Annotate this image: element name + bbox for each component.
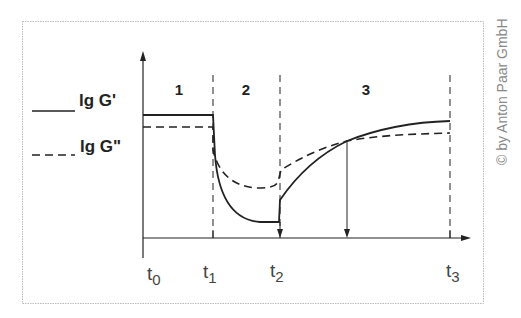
phase-separators (213, 75, 450, 238)
t0-label: t0 (147, 263, 161, 288)
phase-3-label: 3 (362, 81, 370, 98)
t1-label: t1 (203, 261, 217, 286)
phase-2-label: 2 (242, 81, 250, 98)
y-axis-arrow-icon (140, 51, 146, 61)
x-axis-arrow-icon (461, 235, 471, 241)
legend-g-double-prime-label: lg G" (80, 137, 121, 156)
rheology-diagram: lg G' lg G" 1 2 3 t0 t1 t2 t3 © by Anton… (0, 0, 521, 318)
axes (140, 51, 471, 258)
t2-down-arrow-icon (277, 229, 283, 238)
legend-g-prime-label: lg G' (79, 91, 116, 110)
t3-label: t3 (446, 260, 460, 285)
crossover-down-arrow-icon (344, 229, 350, 238)
phase-1-label: 1 (175, 81, 183, 98)
time-labels: t0 t1 t2 t3 (147, 260, 460, 288)
copyright-notice: © by Anton Paar GmbH (494, 19, 510, 166)
g-prime-curve (143, 115, 450, 222)
frame-outline (23, 22, 484, 304)
t2-label: t2 (270, 260, 284, 285)
